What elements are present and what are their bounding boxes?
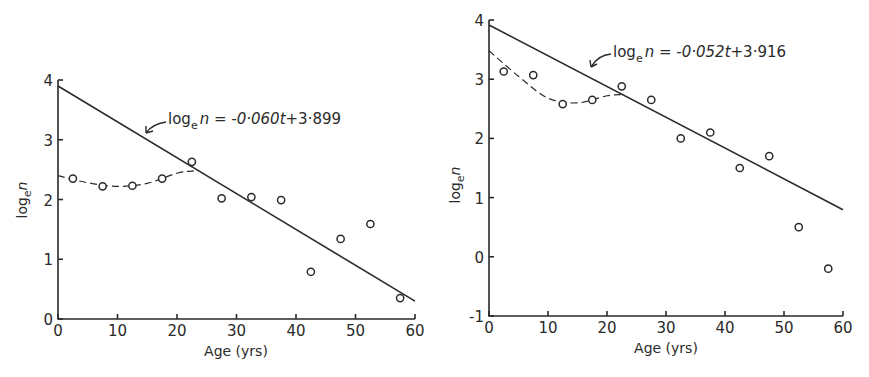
data-point-circle-icon <box>648 96 655 103</box>
left-annotation-arrow-icon <box>146 122 166 133</box>
figure: 010203040506001234 Age (yrs) logen logen… <box>0 0 869 377</box>
left-smooth-curve <box>58 171 195 187</box>
right-x-axis-title: Age (yrs) <box>634 340 698 356</box>
right-annotation-arrow-icon <box>590 54 611 67</box>
data-point-circle-icon <box>69 175 76 182</box>
x-tick-label: 50 <box>346 322 365 340</box>
data-point-circle-icon <box>248 194 255 201</box>
right-smooth-curve <box>489 51 625 103</box>
data-point-circle-icon <box>218 195 225 202</box>
chart-left: 010203040506001234 Age (yrs) logen logen… <box>14 72 425 359</box>
x-tick-label: 20 <box>167 322 186 340</box>
right-y-axis-title: logen <box>447 167 467 204</box>
data-point-circle-icon <box>795 224 802 231</box>
x-tick-label: 60 <box>833 319 852 337</box>
y-tick-label: 1 <box>474 190 484 208</box>
chart-right: 0102030405060-101234 Age (yrs) logen log… <box>447 12 853 356</box>
data-point-circle-icon <box>618 83 625 90</box>
data-point-circle-icon <box>707 129 714 136</box>
y-tick-label: 3 <box>474 71 484 89</box>
x-tick-label: 30 <box>227 322 246 340</box>
x-tick-label: 10 <box>108 322 127 340</box>
x-tick-label: 40 <box>715 319 734 337</box>
data-point-circle-icon <box>99 183 106 190</box>
y-tick-label: 2 <box>43 192 53 210</box>
y-tick-label: 1 <box>43 251 53 269</box>
dashed-trend-curve <box>58 171 195 187</box>
data-point-circle-icon <box>589 96 596 103</box>
left-x-axis-title: Age (yrs) <box>204 343 268 359</box>
data-point-circle-icon <box>559 100 566 107</box>
left-data-points <box>69 158 403 301</box>
data-point-circle-icon <box>530 71 537 78</box>
data-point-circle-icon <box>307 268 314 275</box>
data-point-circle-icon <box>677 135 684 142</box>
axis-line <box>489 20 843 316</box>
data-point-circle-icon <box>159 175 166 182</box>
data-point-circle-icon <box>397 294 404 301</box>
data-point-circle-icon <box>278 196 285 203</box>
data-point-circle-icon <box>825 265 832 272</box>
data-point-circle-icon <box>129 182 136 189</box>
data-point-circle-icon <box>337 235 344 242</box>
right-equation-label: logen = -0·052t+3·916 <box>613 43 786 65</box>
data-point-circle-icon <box>188 158 195 165</box>
data-point-circle-icon <box>736 164 743 171</box>
data-point-circle-icon <box>500 68 507 75</box>
x-tick-label: 10 <box>538 319 557 337</box>
left-equation-label: logen = -0·060t+3·899 <box>168 110 341 132</box>
y-tick-label: 3 <box>43 132 53 150</box>
x-tick-label: 50 <box>774 319 793 337</box>
y-tick-label: 4 <box>474 12 484 30</box>
x-tick-label: 30 <box>656 319 675 337</box>
y-tick-label: 0 <box>43 311 53 329</box>
y-tick-label: 4 <box>43 72 53 90</box>
x-tick-label: 60 <box>405 322 424 340</box>
y-tick-label: 0 <box>474 249 484 267</box>
x-tick-label: 40 <box>286 322 305 340</box>
y-tick-label: 2 <box>474 130 484 148</box>
y-tick-label: -1 <box>469 308 484 326</box>
x-tick-label: 0 <box>53 322 63 340</box>
data-point-circle-icon <box>766 153 773 160</box>
left-y-axis-title: logen <box>14 182 34 219</box>
x-tick-label: 20 <box>597 319 616 337</box>
data-point-circle-icon <box>367 220 374 227</box>
dashed-trend-curve <box>489 51 625 103</box>
x-tick-label: 0 <box>484 319 494 337</box>
